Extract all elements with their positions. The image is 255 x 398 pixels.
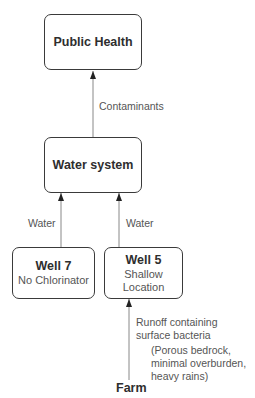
- edge-label-runoff-line1: Runoff containing: [136, 316, 218, 328]
- edge-label-conditions-line3: heavy rains): [151, 370, 208, 382]
- arrow-well7-to-water: [58, 193, 64, 247]
- node-title: Public Health: [53, 35, 132, 50]
- edge-label-conditions-line1: (Porous bedrock,: [151, 344, 231, 356]
- node-subtitle-line1: Shallow: [124, 268, 163, 281]
- edge-label-conditions-line2: minimal overburden,: [151, 357, 246, 369]
- arrow-water-to-public-health: [90, 71, 96, 137]
- node-farm: Farm: [116, 381, 147, 395]
- arrow-farm-to-well5: [126, 299, 132, 380]
- node-title: Well 7: [36, 259, 72, 274]
- node-subtitle-line2: Location: [123, 281, 165, 294]
- node-title: Well 5: [126, 253, 162, 268]
- node-water-system: Water system: [44, 137, 142, 193]
- node-well-5: Well 5 Shallow Location: [104, 247, 183, 299]
- arrow-well5-to-water: [116, 193, 122, 247]
- node-public-health: Public Health: [44, 14, 142, 70]
- edge-label-runoff-line2: surface bacteria: [136, 329, 211, 341]
- edge-label-water-left: Water: [28, 217, 56, 229]
- edge-label-contaminants: Contaminants: [99, 100, 164, 112]
- node-well-7: Well 7 No Chlorinator: [12, 247, 95, 299]
- edge-label-water-right: Water: [126, 217, 154, 229]
- node-subtitle: No Chlorinator: [18, 274, 89, 287]
- node-title: Water system: [53, 158, 134, 173]
